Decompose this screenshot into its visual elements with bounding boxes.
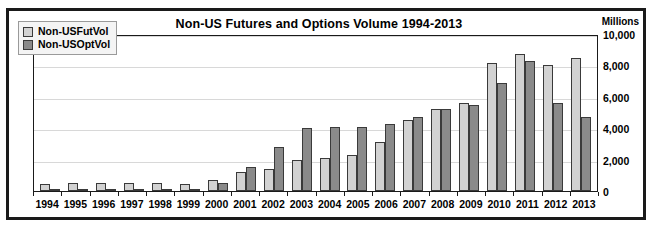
y-axis-tick-label: 4,000 — [603, 123, 629, 135]
x-axis-tick — [372, 192, 373, 196]
bar-futures — [68, 183, 78, 191]
y-axis-tick-label: 6,000 — [603, 92, 629, 104]
x-axis-ticks — [33, 192, 598, 197]
legend-swatch-icon — [23, 27, 33, 37]
y-axis-tick-label: 2,000 — [603, 155, 629, 167]
bar-options — [553, 103, 563, 191]
bar-options — [50, 189, 60, 191]
bar-futures — [403, 120, 413, 191]
x-axis-tick — [146, 192, 147, 196]
bar-options — [274, 147, 284, 191]
bar-group — [483, 36, 511, 191]
chart-legend: Non-USFutVolNon-USOptVol — [18, 21, 117, 55]
x-axis-tick-label: 1994 — [33, 198, 61, 216]
bar-futures — [375, 142, 385, 191]
bar-options — [581, 117, 591, 191]
bar-options — [469, 105, 479, 191]
x-axis-tick-label: 2008 — [429, 198, 457, 216]
bar-futures — [292, 160, 302, 191]
x-axis-tick — [33, 192, 34, 196]
bar-futures — [431, 109, 441, 191]
legend-label: Non-USOptVol — [38, 38, 110, 51]
x-axis-tick-label: 1995 — [61, 198, 89, 216]
bar-futures — [96, 183, 106, 191]
bar-options — [246, 167, 256, 191]
bar-futures — [236, 172, 246, 191]
legend-swatch-icon — [23, 40, 33, 50]
bar-group — [371, 36, 399, 191]
x-axis-tick-label: 2013 — [570, 198, 598, 216]
x-axis-tick-label: 2005 — [344, 198, 372, 216]
x-axis-tick-label: 2003 — [287, 198, 315, 216]
bar-options — [413, 117, 423, 191]
bar-group — [343, 36, 371, 191]
chart-title: Non-US Futures and Options Volume 1994-2… — [39, 17, 599, 31]
bar-futures — [459, 103, 469, 191]
x-axis-tick-label: 1999 — [174, 198, 202, 216]
bar-options — [218, 183, 228, 191]
x-axis-tick — [259, 192, 260, 196]
x-axis-tick — [231, 192, 232, 196]
x-axis-tick — [344, 192, 345, 196]
bar-group — [204, 36, 232, 191]
x-axis-tick-label: 2006 — [372, 198, 400, 216]
bar-group — [232, 36, 260, 191]
x-axis-tick — [90, 192, 91, 196]
bar-group — [92, 36, 120, 191]
bar-options — [497, 83, 507, 191]
plot-area — [33, 35, 598, 192]
bar-options — [525, 61, 535, 191]
bar-groups — [34, 36, 597, 191]
x-axis-tick-label: 2011 — [513, 198, 541, 216]
x-axis-tick-label: 2012 — [542, 198, 570, 216]
x-axis-labels: 1994199519961997199819992000200120022003… — [33, 198, 598, 216]
bar-futures — [208, 180, 218, 191]
x-axis-tick-label: 2001 — [231, 198, 259, 216]
bar-futures — [571, 58, 581, 191]
x-axis-tick — [61, 192, 62, 196]
bar-options — [441, 109, 451, 191]
x-axis-tick — [598, 192, 599, 196]
legend-label: Non-USFutVol — [38, 25, 108, 38]
x-axis-tick — [287, 192, 288, 196]
bar-group — [120, 36, 148, 191]
bar-futures — [180, 184, 190, 191]
x-axis-tick — [118, 192, 119, 196]
bar-group — [260, 36, 288, 191]
bar-futures — [124, 183, 134, 191]
bar-futures — [515, 54, 525, 191]
x-axis-tick — [513, 192, 514, 196]
bar-group — [288, 36, 316, 191]
bar-group — [36, 36, 64, 191]
x-axis-tick-label: 2000 — [203, 198, 231, 216]
y-axis-tick-label: 8,000 — [603, 60, 629, 72]
bar-futures — [320, 158, 330, 191]
bar-group — [539, 36, 567, 191]
x-axis-tick-label: 2010 — [485, 198, 513, 216]
x-axis-tick — [457, 192, 458, 196]
bar-group — [455, 36, 483, 191]
bar-group — [399, 36, 427, 191]
x-axis-tick-label: 1996 — [90, 198, 118, 216]
bar-group — [567, 36, 595, 191]
x-axis-tick-label: 1998 — [146, 198, 174, 216]
bar-group — [64, 36, 92, 191]
x-axis-tick-label: 2004 — [316, 198, 344, 216]
x-axis-tick-label: 2009 — [457, 198, 485, 216]
bar-options — [330, 127, 340, 191]
bar-futures — [347, 155, 357, 191]
bar-group — [511, 36, 539, 191]
x-axis-tick — [429, 192, 430, 196]
y-axis-units-label: Millions — [602, 16, 639, 27]
bar-futures — [152, 183, 162, 191]
x-axis-tick-label: 2002 — [259, 198, 287, 216]
bar-futures — [487, 63, 497, 191]
legend-item[interactable]: Non-USFutVol — [23, 25, 110, 38]
x-axis-tick — [570, 192, 571, 196]
bar-group — [176, 36, 204, 191]
bar-options — [106, 189, 116, 191]
bar-options — [302, 128, 312, 191]
y-axis-labels: 10,0008,0006,0004,0002,0000 — [601, 29, 647, 199]
bar-options — [162, 189, 172, 191]
legend-item[interactable]: Non-USOptVol — [23, 38, 110, 51]
